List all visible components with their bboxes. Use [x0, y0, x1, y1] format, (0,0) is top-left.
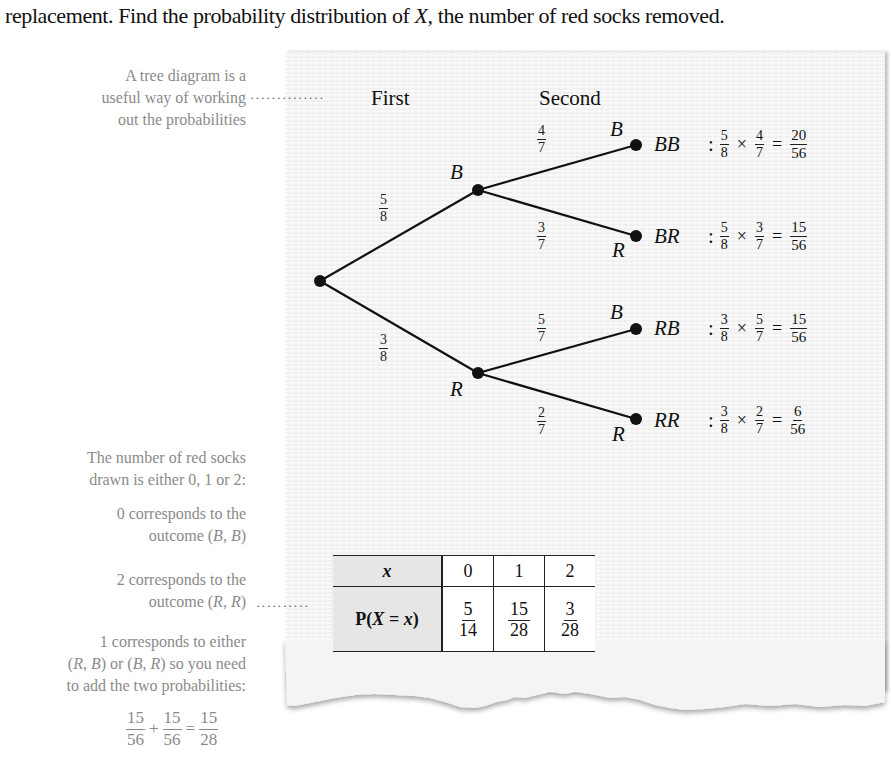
prob-first-R: 38 — [379, 333, 388, 364]
branch-R-R — [478, 373, 636, 419]
prob-first-B: 58 — [379, 193, 388, 224]
outcome-BR: BR: 58 × 37 = 1556 — [654, 220, 807, 253]
node-B — [472, 184, 484, 196]
table-cell-x: 2 — [545, 556, 596, 587]
label-second-B1: B — [610, 117, 623, 142]
branch-R-B — [478, 329, 636, 373]
table-row-x: x 0 1 2 — [333, 556, 595, 587]
outcome-RR: RR: 38 × 27 = 656 — [654, 404, 805, 437]
label-second-R1: R — [612, 238, 625, 263]
header-second: Second — [539, 86, 601, 111]
table-cell-x: 1 — [494, 556, 545, 587]
node-RR — [630, 413, 642, 425]
label-first-R: R — [450, 377, 463, 402]
node-BR — [630, 230, 642, 242]
table-cell-x: 0 — [442, 556, 494, 587]
prob-R-B: 57 — [537, 313, 546, 344]
table-cell-probability: 1528 — [494, 587, 545, 652]
node-RB — [630, 323, 642, 335]
node-root — [314, 275, 326, 287]
table-row-probability: P(X = x) 514 1528 328 — [333, 587, 595, 652]
label-first-B: B — [450, 160, 463, 185]
table-header-probability: P(X = x) — [333, 587, 442, 652]
header-first: First — [371, 86, 410, 111]
node-R — [472, 367, 484, 379]
branch-root-R — [320, 281, 478, 373]
outcome-RB: RB: 38 × 57 = 1556 — [654, 312, 807, 345]
prob-R-R: 27 — [537, 406, 546, 437]
table-cell-probability: 514 — [442, 587, 494, 652]
branch-B-R — [478, 190, 636, 236]
branch-root-B — [320, 190, 478, 281]
table-header-x: x — [333, 556, 442, 587]
node-BB — [630, 139, 642, 151]
outcome-BB: BB: 58 × 47 = 2056 — [654, 128, 807, 161]
probability-distribution-table: x 0 1 2 P(X = x) 514 1528 328 — [333, 555, 595, 652]
prob-B-B: 47 — [537, 124, 546, 155]
label-second-R2: R — [612, 422, 625, 447]
branch-B-B — [478, 145, 636, 190]
label-second-B2: B — [610, 300, 623, 325]
prob-B-R: 37 — [537, 221, 546, 252]
table-cell-probability: 328 — [545, 587, 596, 652]
